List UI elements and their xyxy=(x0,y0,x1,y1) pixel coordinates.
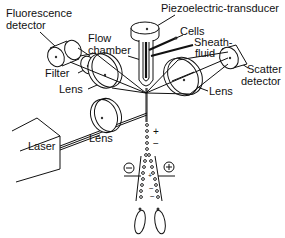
flow-cytometer-diagram: Fluorescence detector Piezoelectric-tran… xyxy=(0,0,285,238)
deflection-plate-positive xyxy=(155,156,175,201)
lens-bottom xyxy=(86,95,126,137)
piezoelectric-transducer xyxy=(131,22,159,42)
label-lens-left: Lens xyxy=(59,83,83,95)
label-piezo: Piezoelectric-transducer xyxy=(161,2,279,14)
label-scatter-2: detector xyxy=(241,75,281,87)
leader-fluorescence xyxy=(40,32,56,47)
label-scatter-1: Scatter xyxy=(247,63,282,75)
charge-minus: − xyxy=(153,138,159,149)
flow-chamber xyxy=(139,40,153,86)
charge-plus: + xyxy=(153,126,159,137)
collection-tube-right xyxy=(153,208,167,235)
label-fluorescence-detector-2: detector xyxy=(6,19,46,31)
label-filter: Filter xyxy=(45,67,70,79)
svg-text:+: + xyxy=(148,172,152,179)
deflection-plate-negative xyxy=(124,156,141,201)
label-flow-chamber-1: Flow xyxy=(88,32,111,44)
collection-tube-left xyxy=(133,208,147,235)
svg-text:−: − xyxy=(150,192,155,201)
label-lens-right: Lens xyxy=(209,85,233,97)
scatter-detector xyxy=(216,44,247,72)
label-fluorescence-detector-1: Fluorescence xyxy=(6,7,72,19)
